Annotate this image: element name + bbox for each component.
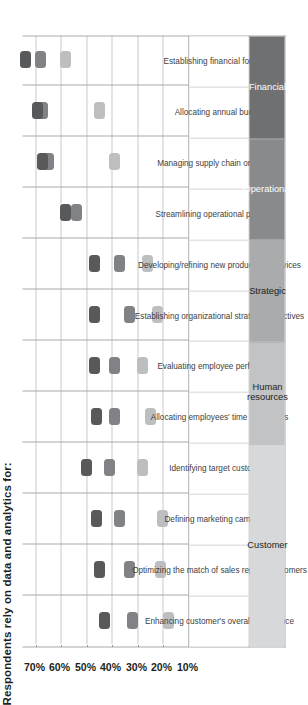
question-label-row: Enhancing customer's overall experienceO…	[189, 35, 249, 647]
y-axis-tick-label: 10%	[172, 660, 202, 672]
column-separator	[22, 492, 188, 493]
gridline	[86, 36, 87, 646]
column-separator	[22, 288, 188, 289]
data-point	[60, 51, 71, 68]
question-label-cell: Streamlining operational processes	[189, 188, 248, 239]
gridline	[60, 36, 61, 646]
data-point	[103, 459, 114, 476]
question-label-cell: Allocating employees' time and efforts	[189, 391, 248, 442]
chart-title: Respondents rely on data and analytics f…	[0, 0, 12, 705]
data-point	[114, 510, 125, 527]
data-point	[80, 459, 91, 476]
gridline	[111, 36, 112, 646]
category-group-cell: Humanresources	[249, 341, 284, 443]
question-label-cell: Developing/refining new products or serv…	[189, 239, 248, 290]
column-separator	[22, 390, 188, 391]
figure-wrapper: Respondents rely on data and analytics f…	[0, 0, 288, 705]
data-point	[70, 204, 81, 221]
question-label-cell: Evaluating employee performance	[189, 340, 248, 391]
category-group-cell: Operational	[249, 138, 284, 240]
question-label-cell: Defining marketing campaigns	[189, 493, 248, 544]
column-separator	[22, 339, 188, 340]
data-point	[108, 153, 119, 170]
question-label-cell: Allocating annual budget	[189, 86, 248, 137]
column-separator	[22, 237, 188, 238]
data-point	[98, 612, 109, 629]
column-separator	[22, 135, 188, 136]
data-point	[114, 255, 125, 272]
question-label-cell: Optimizing the match of sales reps to cu…	[189, 544, 248, 595]
gridline	[35, 36, 36, 646]
data-point	[91, 408, 102, 425]
question-label-cell: Identifying target customers	[189, 442, 248, 493]
column-separator	[22, 441, 188, 442]
column-separator	[22, 84, 188, 85]
plot-area	[22, 35, 188, 647]
data-point	[137, 459, 148, 476]
category-group-cell: Customer	[249, 443, 284, 646]
question-label-cell: Managing supply chain or logistics	[189, 137, 248, 188]
category-group-cell: Financial	[249, 36, 284, 138]
data-point	[19, 51, 30, 68]
data-point	[91, 510, 102, 527]
data-point	[108, 357, 119, 374]
category-group-label: Humanresources	[246, 383, 287, 403]
category-group-cell: Strategic	[249, 239, 284, 341]
category-group-band: CustomerHumanresourcesStrategicOperation…	[249, 35, 285, 647]
data-point	[124, 306, 135, 323]
data-point	[34, 51, 45, 68]
column-separator	[22, 594, 188, 595]
data-point	[37, 153, 48, 170]
column-separator	[22, 543, 188, 544]
data-point	[137, 357, 148, 374]
data-point	[93, 561, 104, 578]
gridline	[162, 36, 163, 646]
gridline	[137, 36, 138, 646]
column-separator	[22, 186, 188, 187]
data-point	[60, 204, 71, 221]
data-point	[32, 102, 43, 119]
data-point	[126, 612, 137, 629]
question-label-cell: Establishing financial forecasts	[189, 36, 248, 86]
data-point	[88, 306, 99, 323]
category-group-label: Operational	[242, 184, 288, 194]
data-point	[88, 357, 99, 374]
question-label-cell: Establishing organizational strategic ob…	[189, 290, 248, 341]
question-label-cell: Enhancing customer's overall experience	[189, 595, 248, 646]
data-point	[88, 255, 99, 272]
rotated-chart-stage: Respondents rely on data and analytics f…	[0, 0, 288, 705]
y-axis-tick-label: 70%	[19, 660, 49, 672]
category-group-label: Strategic	[248, 286, 285, 296]
data-point	[93, 102, 104, 119]
category-group-label: Customer	[246, 540, 286, 550]
category-group-label: Financial	[248, 82, 285, 92]
data-point	[108, 408, 119, 425]
